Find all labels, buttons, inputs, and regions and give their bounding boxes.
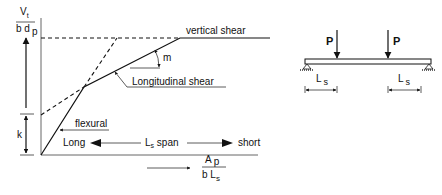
shear-bond-diagram: Vt b dp k vertical shear m Longitudinal … (0, 0, 442, 195)
right-support (422, 64, 436, 70)
longitudinal-shear-label: Longitudinal shear (132, 76, 214, 87)
shear-span-label-left: Ls (316, 73, 329, 87)
long-label: Long (63, 137, 85, 148)
span-arrow-row: Long Ls span short (63, 137, 260, 149)
x-label-denominator: b Ls (202, 169, 220, 183)
flexural-label: flexural (75, 118, 107, 129)
slope-m-label: m (163, 52, 171, 63)
y-label-denominator: b dp (16, 23, 38, 37)
k-label: k (17, 129, 23, 140)
short-arrowhead (222, 139, 233, 147)
flexural-projection (84, 38, 117, 87)
k-dimension: k (17, 114, 34, 155)
beam-diagram: P P Ls Ls (300, 30, 436, 93)
span-label: Ls span (145, 137, 179, 149)
short-label: short (238, 137, 260, 148)
y-label-numerator: Vt (20, 6, 29, 19)
load-label-left: P (326, 35, 333, 47)
beam (305, 59, 431, 64)
shear-span-label-right: Ls (398, 73, 411, 87)
load-label-right: P (393, 35, 400, 47)
vertical-shear-label: vertical shear (186, 25, 246, 36)
x-label-numerator: Ap (205, 154, 220, 167)
long-arrowhead (90, 139, 101, 147)
longitudinal-shear-projection (41, 87, 84, 115)
x-axis-label: Ap b Ls (202, 154, 226, 183)
left-support (300, 64, 314, 70)
y-axis-label: Vt b dp (16, 6, 38, 37)
